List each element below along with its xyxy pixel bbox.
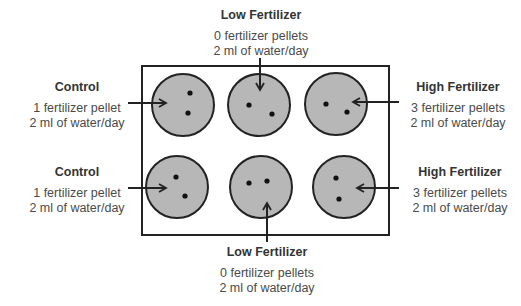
label-title: Low Fertilizer	[206, 245, 328, 260]
label-title: Low Fertilizer	[200, 8, 322, 23]
pellet-dot	[336, 196, 341, 201]
pellet-dot	[182, 193, 187, 198]
well-top-left	[152, 74, 214, 136]
label-line-pellets: 3 fertilizer pellets	[398, 101, 518, 116]
label-title: High Fertilizer	[400, 165, 520, 180]
label-line-water: 2 ml of water/day	[200, 44, 322, 59]
pellet-dot	[187, 90, 192, 95]
wells-group	[146, 73, 375, 218]
label-line-pellets: 0 fertilizer pellets	[200, 29, 322, 44]
pellet-dot	[246, 180, 251, 185]
label-control-top: Control 1 fertilizer pellet 2 ml of wate…	[22, 80, 132, 131]
well-bottom-middle	[230, 156, 292, 218]
pellet-dot	[333, 175, 338, 180]
label-low-fertilizer-top: Low Fertilizer 0 fertilizer pellets 2 ml…	[200, 8, 322, 59]
label-line-pellets: 1 fertilizer pellet	[22, 101, 132, 116]
pellet-dot	[185, 110, 190, 115]
label-line-water: 2 ml of water/day	[206, 281, 328, 296]
label-control-bottom: Control 1 fertilizer pellet 2 ml of wate…	[22, 165, 132, 216]
label-line-water: 2 ml of water/day	[22, 116, 132, 131]
label-line-pellets: 0 fertilizer pellets	[206, 266, 328, 281]
label-title: Control	[22, 80, 132, 95]
label-title: High Fertilizer	[398, 80, 518, 95]
label-line-pellets: 3 fertilizer pellets	[400, 186, 520, 201]
label-high-fertilizer-top: High Fertilizer 3 fertilizer pellets 2 m…	[398, 80, 518, 131]
well-circle	[152, 74, 214, 136]
pellet-dot	[246, 102, 251, 107]
pellet-dot	[264, 178, 269, 183]
pellet-dot	[173, 174, 178, 179]
label-low-fertilizer-bottom: Low Fertilizer 0 fertilizer pellets 2 ml…	[206, 245, 328, 296]
label-line-water: 2 ml of water/day	[22, 201, 132, 216]
well-circle	[230, 156, 292, 218]
pellet-dot	[344, 109, 349, 114]
label-line-pellets: 1 fertilizer pellet	[22, 186, 132, 201]
well-circle	[305, 73, 367, 135]
label-line-water: 2 ml of water/day	[400, 201, 520, 216]
label-high-fertilizer-bottom: High Fertilizer 3 fertilizer pellets 2 m…	[400, 165, 520, 216]
well-top-right	[305, 73, 367, 135]
pellet-dot	[269, 111, 274, 116]
pellet-dot	[323, 101, 328, 106]
label-line-water: 2 ml of water/day	[398, 116, 518, 131]
label-title: Control	[22, 165, 132, 180]
experiment-diagram: Control 1 fertilizer pellet 2 ml of wate…	[0, 0, 521, 306]
